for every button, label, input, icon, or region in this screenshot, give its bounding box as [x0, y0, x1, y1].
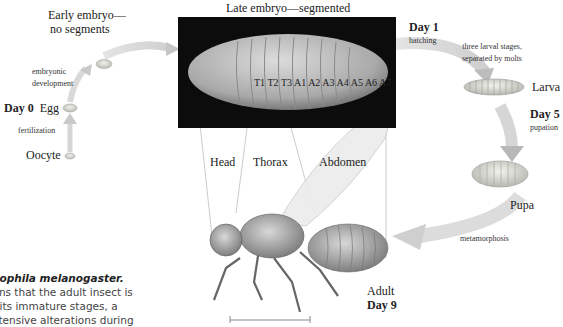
egg-shape — [63, 104, 77, 112]
segment-A1: A1 — [294, 77, 306, 88]
segment-T1: T1 — [254, 77, 265, 88]
segment-A7: A7 — [379, 77, 391, 88]
segment-T2: T2 — [267, 77, 278, 88]
abdomen-label: Abdomen — [319, 155, 366, 170]
hatching-label: hatching — [409, 36, 437, 45]
figure-caption: osophila melanogaster. eans that the adu… — [0, 271, 134, 327]
caption-title: osophila melanogaster. — [0, 271, 134, 285]
oocyte-shape — [65, 153, 75, 159]
fertilization-label: fertilization — [18, 126, 55, 135]
metamorphosis-label: metamorphosis — [460, 234, 509, 243]
early-embryo-shape — [96, 60, 112, 69]
segment-T3: T3 — [281, 77, 292, 88]
larva-label: Larva — [532, 80, 560, 95]
segment-A6: A6 — [365, 77, 377, 88]
arrow-to-late-embryo — [104, 42, 180, 56]
segmented-embryo-shape — [178, 17, 396, 128]
egg-label: Day 0 Egg — [4, 101, 59, 116]
segment-labels: T1 T2 T3 A1 A2 A3 A4 A5 A6 A7 — [254, 77, 391, 88]
day-0-label: Day 0 — [4, 101, 34, 115]
segment-A2: A2 — [308, 77, 320, 88]
adult-fly-illustration — [210, 108, 389, 312]
day-1-label: Day 1 — [409, 20, 439, 35]
thorax-label: Thorax — [253, 155, 288, 170]
adult-label: Adult — [367, 284, 394, 299]
embryonic-development-label: embryonic development — [32, 66, 73, 90]
scale-bar — [230, 316, 310, 323]
pupa-label: Pupa — [510, 198, 534, 213]
pupation-label: pupation — [530, 123, 558, 132]
pupa-shape — [472, 161, 528, 187]
larval-stages-label: three larval stages, separated by molts — [462, 41, 522, 65]
oocyte-label: Oocyte — [26, 148, 61, 163]
segment-A4: A4 — [337, 77, 349, 88]
arrow-fertilization — [63, 113, 77, 152]
segment-A3: A3 — [322, 77, 334, 88]
segment-A5: A5 — [351, 77, 363, 88]
larva-shape — [464, 79, 524, 95]
day-9-label: Day 9 — [367, 298, 397, 313]
early-embryo-label: Early embryo— no segments — [48, 8, 126, 36]
late-embryo-image — [178, 17, 396, 128]
day-5-label: Day 5 — [530, 107, 560, 122]
late-embryo-label: Late embryo—segmented — [226, 1, 350, 16]
arrow-pupation — [500, 106, 524, 162]
head-label: Head — [210, 155, 235, 170]
